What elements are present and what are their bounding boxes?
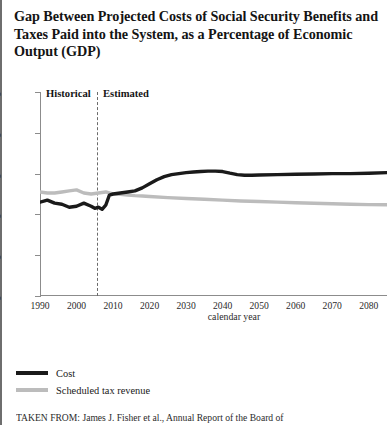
- y-tick-label: 4%: [0, 209, 1, 220]
- x-tick-label: 2030: [177, 300, 196, 311]
- y-tick-label: 10%: [0, 87, 1, 98]
- y-tick-label: 8%: [0, 127, 1, 138]
- x-tick-label: 2000: [67, 300, 86, 311]
- legend-item-cost: Cost: [16, 366, 316, 380]
- plot-area: [40, 92, 387, 296]
- x-tick-label: 1990: [30, 300, 49, 311]
- chart-legend: Cost Scheduled tax revenue: [16, 366, 316, 400]
- x-tick-label: 2080: [359, 300, 378, 311]
- x-tick-label: 2040: [213, 300, 232, 311]
- legend-swatch-cost: [16, 371, 48, 375]
- legend-label-scheduled-tax-revenue: Scheduled tax revenue: [56, 385, 150, 396]
- figure-page: Gap Between Projected Costs of Social Se…: [0, 0, 392, 425]
- y-tick-label: 0%: [0, 291, 1, 302]
- legend-swatch-scheduled-tax-revenue: [16, 388, 48, 392]
- legend-item-scheduled-tax-revenue: Scheduled tax revenue: [16, 383, 316, 397]
- x-tick-label: 2060: [286, 300, 305, 311]
- x-tick-label: 2010: [103, 300, 122, 311]
- x-tick-label: 2070: [323, 300, 342, 311]
- y-tick-label: 2%: [0, 250, 1, 261]
- legend-label-cost: Cost: [56, 368, 75, 379]
- source-caption: TAKEN FROM: James J. Fisher et al., Annu…: [16, 412, 388, 424]
- chart-container: 0%2%4%6%8%10% 19902000201020202030204020…: [2, 0, 392, 425]
- x-axis-title: calendar year: [2, 311, 392, 322]
- y-tick-label: 6%: [0, 168, 1, 179]
- x-tick-label: 2050: [250, 300, 269, 311]
- series-line-scheduled-tax-revenue: [40, 190, 387, 205]
- x-tick-label: 2020: [140, 300, 159, 311]
